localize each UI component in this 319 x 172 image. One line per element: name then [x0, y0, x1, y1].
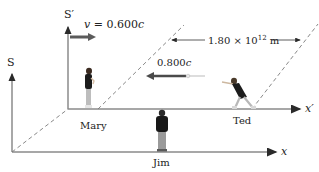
jim-label: Jim: [152, 157, 170, 168]
jim-feet: [157, 149, 167, 152]
relativity-diagram: S x S′ x′ v = 0.600c 1.80 × 1012 m 0.800…: [0, 0, 319, 172]
velocity-indicator: v = 0.600c: [70, 18, 144, 41]
jim-legs: [158, 132, 166, 150]
s-frame-label: S: [7, 56, 15, 69]
jim-figure: Jim: [152, 110, 170, 168]
s-prime-frame-label: S′: [64, 8, 75, 21]
light-pulse-dot-icon: [186, 74, 190, 78]
ted-legs: [235, 97, 253, 108]
light-pulse-arrowhead-icon: [146, 72, 154, 80]
mary-legs: [86, 89, 91, 106]
ted-figure: Ted: [222, 78, 256, 126]
light-pulse-label: 0.800c: [157, 57, 192, 68]
jim-head: [159, 110, 165, 116]
x-prime-axis-label: x′: [305, 102, 314, 115]
ted-label: Ted: [233, 115, 252, 126]
distance-indicator: 1.80 × 1012 m: [172, 34, 300, 46]
frame-s: S x: [7, 56, 288, 158]
mary-feet: [85, 105, 92, 108]
mary-torso: [85, 74, 92, 89]
ted-shoe-right: [251, 106, 256, 109]
x-axis-label: x: [281, 145, 288, 158]
mary-label: Mary: [80, 120, 107, 131]
velocity-label: v = 0.600c: [84, 18, 144, 31]
light-pulse-indicator: 0.800c: [146, 57, 205, 80]
velocity-arrowhead-icon: [88, 33, 96, 41]
ted-shoe-left: [232, 106, 237, 109]
origin-dashed-line: [12, 109, 68, 152]
mary-figure: Mary: [80, 68, 107, 131]
jim-torso: [156, 116, 168, 132]
distance-label: 1.80 × 1012 m: [208, 34, 280, 46]
mary-head: [86, 68, 92, 75]
